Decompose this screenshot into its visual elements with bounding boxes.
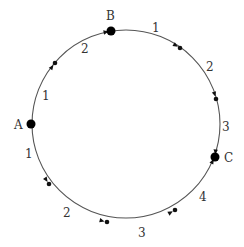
path-circle [32, 30, 220, 218]
arrowhead-icon [99, 218, 104, 222]
node-c: C [211, 151, 234, 165]
arrowhead-icon [212, 91, 216, 96]
waypoint-dot [173, 208, 178, 213]
edge-weight-label: 1 [42, 89, 50, 103]
circular-path-diagram: ABC 211231234 [0, 0, 244, 247]
arrowhead-icon [43, 177, 48, 182]
node-dot [107, 27, 116, 36]
edge-weight-label: 3 [222, 120, 230, 134]
node-label: C [224, 151, 233, 165]
edge-weight-label: 2 [63, 206, 71, 220]
waypoint-dot [214, 97, 219, 102]
waypoint-dot [47, 182, 52, 187]
edge-weight-label: 1 [152, 21, 160, 35]
node-b: B [106, 9, 116, 36]
edge-weight-label: 2 [206, 60, 214, 74]
node-label: A [13, 118, 23, 132]
waypoint-dot [105, 220, 110, 225]
node-layer: ABC [13, 9, 233, 165]
node-dot [27, 120, 36, 129]
diagram-canvas: ABC 211231234 [0, 0, 244, 247]
edge-weight-label: 2 [81, 42, 89, 56]
waypoint-dot [178, 46, 183, 51]
edge-weight-label: 1 [25, 147, 33, 161]
waypoint-layer [47, 46, 219, 225]
node-dot [211, 153, 220, 162]
arrowhead-icon [167, 211, 172, 215]
edge-weight-label: 4 [199, 190, 207, 204]
edge-label-layer: 211231234 [25, 21, 230, 240]
arrow-layer [43, 30, 218, 222]
waypoint-dot [53, 61, 58, 66]
edge-weight-label: 3 [138, 226, 146, 240]
node-label: B [106, 9, 115, 23]
